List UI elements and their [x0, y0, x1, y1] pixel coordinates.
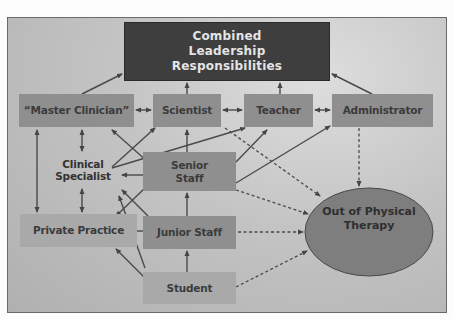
student-box: Student: [143, 272, 236, 304]
clinical-specialist-node: Clinical Specialist: [52, 153, 114, 187]
administrator-label: Administrator: [343, 104, 423, 116]
out-of-pt-line-2: Therapy: [305, 219, 433, 233]
clinical-specialist-line-2: Specialist: [55, 170, 111, 182]
senior-staff-box: Senior Staff: [143, 152, 236, 191]
combined-label-line-1: Combined: [192, 29, 261, 44]
student-label: Student: [167, 282, 213, 294]
master-clinician-label: “Master Clinician”: [24, 104, 129, 116]
private-practice-label: Private Practice: [33, 224, 124, 236]
administrator-box: Administrator: [332, 94, 433, 127]
teacher-label: Teacher: [256, 104, 301, 116]
private-practice-box: Private Practice: [20, 214, 137, 247]
out-of-pt-label: Out of Physical Therapy: [305, 205, 433, 234]
senior-staff-line-1: Senior: [171, 159, 208, 171]
clinical-specialist-line-1: Clinical: [62, 158, 103, 170]
combined-label-line-3: Responsibilities: [172, 59, 282, 74]
senior-staff-line-2: Staff: [176, 172, 204, 184]
junior-staff-label: Junior Staff: [157, 226, 222, 238]
junior-staff-box: Junior Staff: [143, 216, 236, 249]
combined-label-line-2: Leadership: [189, 44, 266, 59]
out-of-pt-line-1: Out of Physical: [305, 205, 433, 219]
master-clinician-box: “Master Clinician”: [19, 94, 134, 127]
scientist-box: Scientist: [153, 94, 221, 127]
scientist-label: Scientist: [162, 104, 212, 116]
teacher-box: Teacher: [244, 94, 313, 127]
combined-leadership-box: Combined Leadership Responsibilities: [124, 22, 330, 81]
